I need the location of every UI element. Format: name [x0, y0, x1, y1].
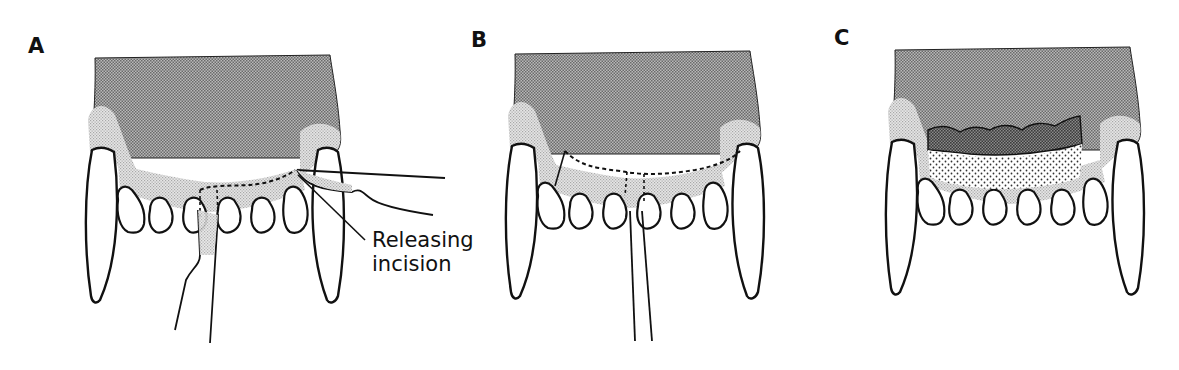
- panel-a-drawing: [86, 55, 445, 343]
- releasing-incision-callout: Releasing incision: [372, 228, 474, 276]
- callout-line-1: Releasing: [372, 228, 474, 252]
- surgical-diagram: [0, 0, 1179, 370]
- panel-label-b: B: [471, 30, 487, 51]
- callout-line-2: incision: [372, 252, 474, 276]
- panel-c-drawing: [886, 47, 1144, 295]
- panel-label-c: C: [834, 28, 849, 49]
- panel-b-drawing: [506, 51, 764, 341]
- panel-label-a: A: [28, 36, 44, 57]
